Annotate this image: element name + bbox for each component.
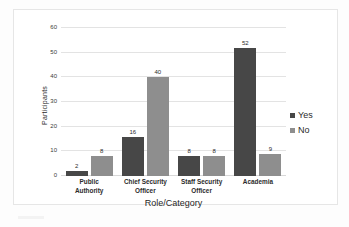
bar[interactable] [91,156,113,176]
category-label-line: Officer [175,187,229,196]
bar-slot: 8 [91,28,113,176]
y-axis-tick-label: 10 [50,147,57,153]
bar-group: 88 [174,28,230,176]
bar-slot: 40 [147,28,169,176]
bar-value-label: 40 [155,69,162,75]
bar-value-label: 8 [187,148,190,154]
bar-value-label: 9 [269,146,272,152]
bar-slot: 8 [178,28,200,176]
legend-swatch-icon [290,113,295,118]
bar-value-label: 8 [100,148,103,154]
bar[interactable] [66,171,88,176]
chart-frame: Participants 0102030405060 28164088529 P… [13,9,338,205]
y-axis-tick-label: 30 [50,98,57,104]
legend-swatch-icon [290,128,295,133]
bar[interactable] [178,156,200,176]
y-axis-tick-label: 40 [50,73,57,79]
chart-legend: YesNo [290,111,313,135]
x-axis-category-label: Staff SecurityOfficer [174,178,230,195]
y-axis-tick-label: 50 [50,49,57,55]
plot-area: 0102030405060 28164088529 [61,28,286,176]
bar[interactable] [147,77,169,176]
bar-slot: 2 [66,28,88,176]
x-axis-category-labels: PublicAuthorityChief SecurityOfficerStaf… [61,178,286,195]
bar[interactable] [234,48,256,176]
scan-artifact [18,216,44,219]
bar[interactable] [122,137,144,176]
bar-value-label: 8 [212,148,215,154]
bar-value-label: 52 [242,40,249,46]
x-axis-category-label: Chief SecurityOfficer [117,178,173,195]
category-label-line: Staff Security [175,178,229,187]
bar-slot: 52 [234,28,256,176]
bar-value-label: 16 [130,129,137,135]
y-axis-title: Participants [38,60,50,150]
x-axis-category-label: Academia [230,178,286,195]
bar-slot: 16 [122,28,144,176]
y-axis-tick-label: 0 [54,172,57,178]
bar-group: 529 [230,28,286,176]
bar-group-bars: 88 [174,28,230,176]
x-axis-category-label: PublicAuthority [61,178,117,195]
bar-group: 28 [61,28,117,176]
bar-value-label: 2 [75,163,78,169]
category-label-line: Chief Security [118,178,172,187]
legend-item-yes[interactable]: Yes [290,111,313,120]
legend-item-no[interactable]: No [290,126,313,135]
page-background: Participants 0102030405060 28164088529 P… [0,0,349,227]
bar[interactable] [203,156,225,176]
category-label-line: Academia [231,178,285,187]
bar-groups: 28164088529 [61,28,286,176]
category-label-line: Officer [118,187,172,196]
x-axis-title: Role/Category [61,198,286,208]
legend-label: Yes [298,111,313,120]
bar-group-bars: 1640 [117,28,173,176]
category-label-line: Authority [62,187,116,196]
bar-slot: 8 [203,28,225,176]
y-axis-tick-label: 20 [50,123,57,129]
bar-group: 1640 [117,28,173,176]
category-label-line: Public [62,178,116,187]
bar-slot: 9 [259,28,281,176]
bar[interactable] [259,154,281,176]
bar-group-bars: 28 [61,28,117,176]
y-axis-tick-label: 60 [50,24,57,30]
y-axis-title-text: Participants [41,86,48,125]
legend-label: No [298,126,310,135]
bar-group-bars: 529 [230,28,286,176]
